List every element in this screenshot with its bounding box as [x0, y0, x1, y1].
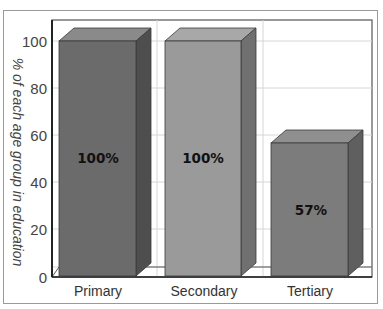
- x-label-tertiary: Tertiary: [287, 283, 333, 299]
- bar-secondary-side: [241, 28, 256, 276]
- bar-secondary-top: [165, 28, 256, 41]
- bar-tertiary-value-label: 57%: [295, 202, 328, 218]
- y-tick-80: 80: [30, 80, 47, 97]
- y-tick-100: 100: [22, 33, 47, 50]
- x-label-primary: Primary: [74, 283, 122, 299]
- bar-primary-side: [136, 28, 151, 276]
- bar-secondary-value-label: 100%: [182, 150, 224, 166]
- y-axis-title: % of each age group in education: [10, 58, 26, 267]
- x-category-labels: Primary Secondary Tertiary: [74, 283, 333, 299]
- bar-primary: 100%: [59, 28, 151, 276]
- x-label-secondary: Secondary: [171, 283, 238, 299]
- y-tick-60: 60: [30, 127, 47, 144]
- y-tick-20: 20: [30, 221, 47, 238]
- bar-primary-value-label: 100%: [77, 150, 119, 166]
- bar-tertiary-side: [348, 130, 363, 276]
- bar-primary-top: [59, 28, 151, 41]
- y-tick-0: 0: [39, 269, 47, 286]
- bar-chart: 100% 100% 57% 0 20 40 60 80 100 % of eac…: [0, 0, 383, 309]
- bar-tertiary: 57%: [271, 130, 363, 276]
- bar-secondary: 100%: [165, 28, 256, 276]
- y-tick-40: 40: [30, 174, 47, 191]
- bar-tertiary-top: [271, 130, 363, 143]
